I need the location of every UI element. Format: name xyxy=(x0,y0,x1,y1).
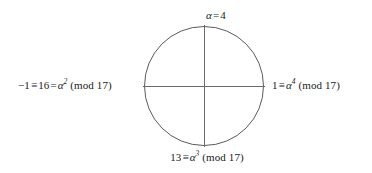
value-bottom: 13 xyxy=(170,151,181,163)
modulus-bottom: (mod 17) xyxy=(202,151,243,163)
modulus-right: (mod 17) xyxy=(299,79,340,91)
relation-bottom: ≡ xyxy=(181,151,189,163)
label-right: 1≡α4 (mod 17) xyxy=(272,79,340,92)
figure-root: α=4 −1≡16=α2 (mod 17) 1≡α4 (mod 17) 13≡α… xyxy=(0,0,372,173)
value-two-left: 16 xyxy=(38,79,49,91)
value-right: 1 xyxy=(272,79,278,91)
label-bottom-content: 13≡α3 (mod 17) xyxy=(170,151,244,164)
label-bottom: 13≡α3 (mod 17) xyxy=(0,151,372,164)
relation-right: ≡ xyxy=(278,79,286,91)
relation-left: ≡ xyxy=(30,79,38,91)
alpha-exponent-bottom: 3 xyxy=(196,149,200,158)
value-top: 4 xyxy=(220,9,226,21)
unit-circle-group xyxy=(144,26,264,146)
label-top-content: α=4 xyxy=(206,9,226,22)
alpha-exponent-right: 4 xyxy=(292,77,296,86)
horizontal-axis-line xyxy=(143,86,265,87)
alpha-exponent-left: 2 xyxy=(64,77,68,86)
label-top: α=4 xyxy=(0,9,372,22)
modulus-left: (mod 17) xyxy=(70,79,111,91)
label-left: −1≡16=α2 (mod 17) xyxy=(18,79,112,92)
value-left: −1 xyxy=(18,79,30,91)
relation-two-left: = xyxy=(49,79,57,91)
